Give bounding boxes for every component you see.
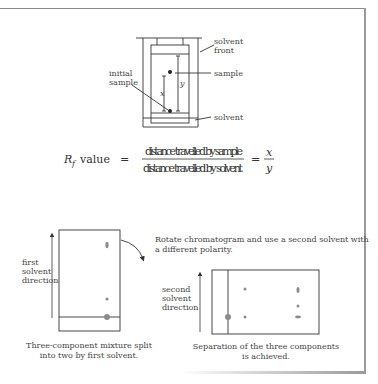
rotate-note-2: a different polarity. xyxy=(155,245,233,254)
leader-solvent xyxy=(195,117,211,120)
caption-right-2: is achieved. xyxy=(242,352,290,361)
label-second-direction: second xyxy=(162,285,190,294)
chromatography-tank xyxy=(132,38,214,127)
caption-left: Three-component mixture split xyxy=(26,341,153,350)
second-chromatogram xyxy=(212,270,319,334)
rotate-note: Rotate chromatogram and use a second sol… xyxy=(155,235,369,244)
caption-right: Separation of the three components xyxy=(193,342,339,351)
spot-origin xyxy=(104,314,110,320)
spot-d xyxy=(297,305,300,308)
fraction-x: x xyxy=(266,146,273,159)
spot-b xyxy=(244,316,247,319)
equals-sign-2: = xyxy=(251,153,260,166)
rf-symbol: R xyxy=(63,153,72,166)
rotate-arrow-icon xyxy=(121,240,143,259)
rf-subscript: f xyxy=(71,159,77,168)
leader-solvent-front xyxy=(200,45,214,52)
label-sample: sample xyxy=(214,69,243,78)
spot-origin-2 xyxy=(225,314,231,320)
label-y: y xyxy=(179,79,185,88)
label-x: x xyxy=(160,89,165,98)
label-first-direction-3: direction xyxy=(22,276,58,285)
label-second-direction-2: solvent xyxy=(162,294,192,303)
label-solvent: solvent xyxy=(214,113,244,122)
label-first-direction-2: solvent xyxy=(22,267,52,276)
spot-c xyxy=(297,287,300,293)
paper-first xyxy=(59,230,120,331)
initial-sample-spot xyxy=(168,109,172,113)
denominator: distance travelled by solvent xyxy=(143,162,244,175)
rf-formula: R f value = distance travelled by sample… xyxy=(63,145,274,175)
label-second-direction-3: direction xyxy=(162,303,198,312)
label-solvent-front: solvent xyxy=(214,37,244,46)
label-initial-sample: initial xyxy=(109,69,133,78)
first-chromatogram xyxy=(59,230,120,331)
label-solvent-front-2: front xyxy=(214,46,235,55)
rf-label: value xyxy=(79,153,110,166)
label-first-direction: first xyxy=(22,258,39,267)
chromatography-diagram: solvent front sample initial sample solv… xyxy=(0,0,378,384)
spot-small xyxy=(105,297,108,300)
fraction-y: y xyxy=(265,162,273,175)
spot-elongated xyxy=(105,242,108,248)
spot-a xyxy=(244,288,247,291)
equals-sign: = xyxy=(120,153,129,166)
caption-left-2: into two by first solvent. xyxy=(40,351,139,360)
sample-spot xyxy=(168,70,172,74)
label-initial-sample-2: sample xyxy=(109,78,138,87)
spot-e xyxy=(295,316,301,319)
numerator: distance travelled by sample xyxy=(145,145,243,158)
